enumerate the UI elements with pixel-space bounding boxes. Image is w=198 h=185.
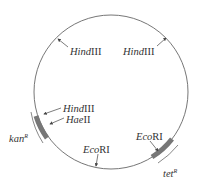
hindiii-1-label: HindIII	[69, 46, 102, 57]
hindiii-3-label: HindIII	[62, 103, 95, 114]
ecori-1-label: EcoRI	[82, 144, 110, 155]
hindiii-2-label: HindIII	[122, 46, 155, 57]
ecori-2-arrow	[150, 141, 158, 151]
ecori-2-label: EcoRI	[135, 131, 163, 142]
ecori-1-arrow	[96, 154, 98, 166]
plasmid-map: HindIII HindIII HindIII HaeII EcoRI EcoR…	[0, 0, 198, 185]
haeii-label: HaeII	[65, 114, 91, 125]
hindiii-1-arrow	[58, 39, 68, 47]
hindiii-2-arrow	[157, 38, 166, 46]
kan-gene-block	[36, 116, 47, 138]
hindiii-3-arrow	[44, 108, 61, 114]
haeii-arrow	[50, 118, 64, 124]
kan-label: kanR	[9, 133, 28, 144]
tet-label: tetR	[163, 168, 178, 179]
